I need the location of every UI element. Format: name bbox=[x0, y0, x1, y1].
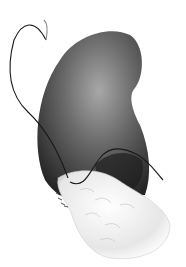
medical-illustration bbox=[0, 0, 186, 267]
